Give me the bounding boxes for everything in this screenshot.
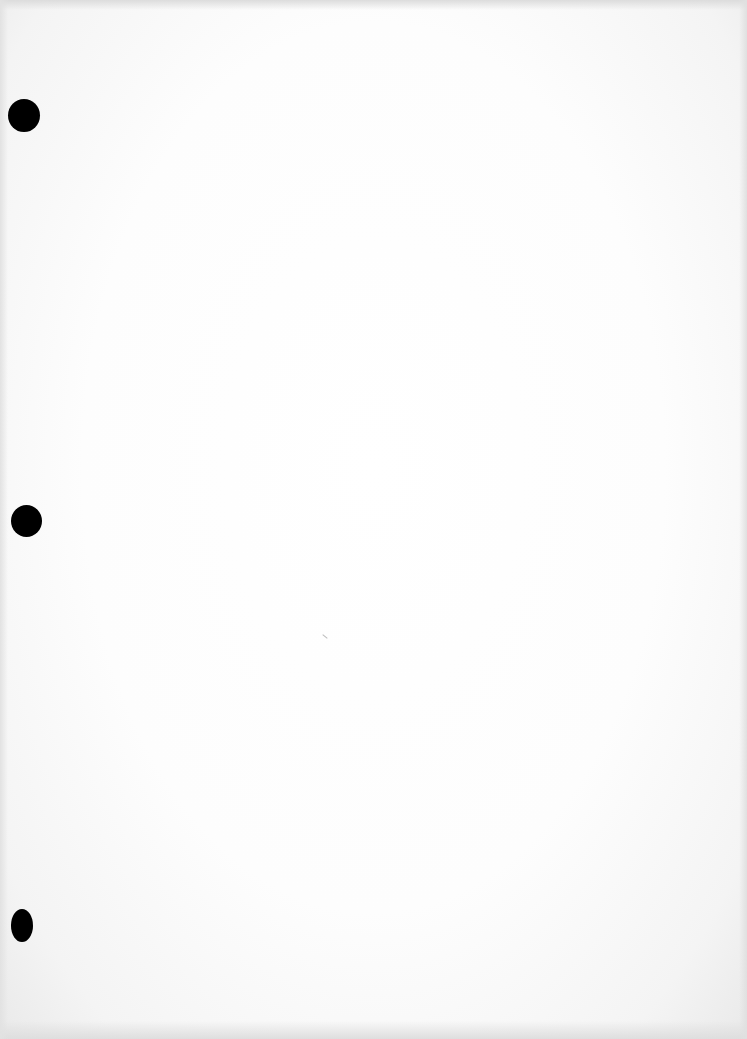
punch-hole-bottom [11,909,33,942]
scanned-page [0,0,747,1039]
punch-hole-top [8,99,40,132]
scan-speck [322,634,327,639]
scan-edge-shadow-left [0,0,8,1039]
scan-edge-shadow-bottom [0,1021,747,1039]
scan-edge-shadow-top [0,0,747,10]
scan-edge-shadow-right [739,0,747,1039]
punch-hole-middle [11,505,42,537]
